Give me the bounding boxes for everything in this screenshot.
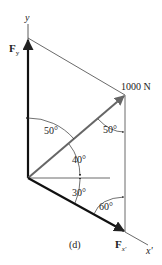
x-prime-axis [125,232,148,245]
angle-label-60: 60° [99,201,113,212]
angle-label-50-right: 50° [103,124,117,135]
angle-label-50-left: 50° [44,125,58,136]
parallelogram-top [28,38,125,95]
figure-caption: (d) [69,239,81,251]
fx-label: Fx' [115,238,127,253]
angle-label-30: 30° [72,187,86,198]
angle-label-40: 40° [72,154,86,165]
x-prime-axis-label: x' [145,245,153,256]
force-1000n-label: 1000 N [121,81,151,92]
y-axis-label: y [24,12,30,23]
force-1000n-arrow [28,96,124,178]
fy-label: Fy [9,42,20,57]
force-diagram: y Fy 1000 N x' Fx' 50° 40° 30° 50° 60° (… [0,0,162,265]
